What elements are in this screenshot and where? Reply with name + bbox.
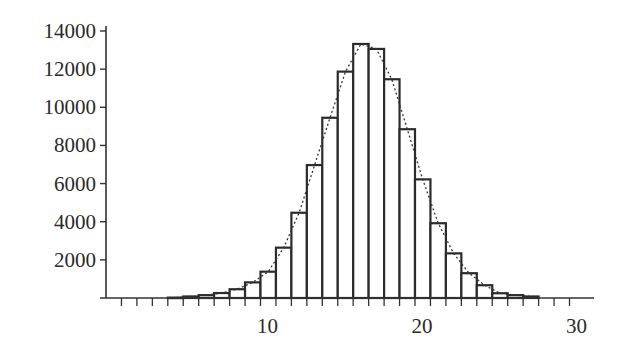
histogram-bar — [369, 49, 384, 298]
y-axis-ticks: 2000400060008000100001200014000 — [44, 19, 107, 272]
histogram-bars — [168, 44, 539, 298]
x-tick-label: 10 — [257, 314, 278, 338]
y-tick-label: 8000 — [54, 133, 96, 157]
histogram-bar — [446, 253, 461, 298]
histogram-bar — [384, 79, 399, 298]
x-tick-label: 30 — [566, 314, 587, 338]
histogram-bar — [322, 118, 337, 298]
x-axis-ticks: 102030 — [121, 298, 587, 338]
histogram-chart: 2000400060008000100001200014000 102030 — [0, 0, 624, 358]
y-tick-label: 4000 — [54, 210, 96, 234]
y-tick-label: 14000 — [44, 19, 97, 43]
histogram-bar — [230, 289, 245, 298]
histogram-bar — [477, 285, 492, 298]
histogram-bar — [338, 72, 353, 298]
y-tick-label: 12000 — [44, 57, 97, 81]
y-tick-label: 10000 — [44, 95, 97, 119]
histogram-bar — [415, 179, 430, 298]
histogram-bar — [291, 213, 306, 298]
y-tick-label: 2000 — [54, 248, 96, 272]
x-tick-label: 20 — [412, 314, 433, 338]
histogram-bar — [353, 44, 368, 298]
histogram-bar — [400, 129, 415, 298]
histogram-bar — [307, 165, 322, 298]
y-tick-label: 6000 — [54, 172, 96, 196]
